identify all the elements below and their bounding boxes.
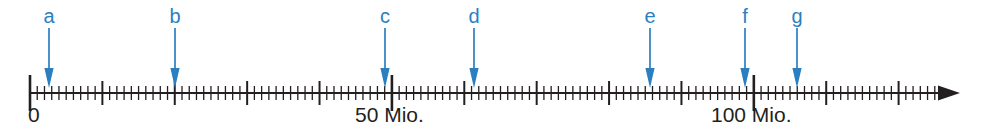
marker-arrowhead-icon-d [469, 68, 478, 88]
marker-arrowhead-icon-e [645, 68, 654, 88]
marker-arrows-group [44, 28, 801, 88]
marker-arrowhead-icon-c [380, 68, 389, 88]
number-line-figure: 0 50 Mio. 100 Mio. a b c d e f g [0, 0, 982, 136]
axis-tick-label-100-mio: 100 Mio. [711, 104, 792, 125]
axis-tick-label-50-mio: 50 Mio. [355, 104, 424, 125]
marker-arrowhead-icon-g [792, 68, 801, 88]
axis-tick-label-0: 0 [28, 104, 40, 125]
marker-arrowhead-icon-a [44, 68, 53, 88]
axis-line-group [30, 86, 960, 101]
axis-arrowhead-icon [938, 86, 960, 101]
marker-label-a: a [29, 6, 69, 26]
marker-label-e: e [630, 6, 670, 26]
marker-label-b: b [155, 6, 195, 26]
marker-arrowhead-icon-f [740, 68, 749, 88]
marker-label-f: f [725, 6, 765, 26]
marker-label-g: g [777, 6, 817, 26]
marker-label-c: c [365, 6, 405, 26]
marker-arrowhead-icon-b [170, 68, 179, 88]
marker-label-d: d [454, 6, 494, 26]
